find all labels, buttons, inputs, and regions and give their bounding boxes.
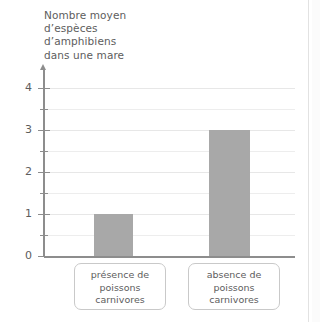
y-tick-major-0 <box>38 256 50 257</box>
gridline-1-0 <box>44 214 295 215</box>
gridline-1-5 <box>44 193 295 194</box>
x-axis-line <box>44 256 295 258</box>
y-tick-minor-0-5 <box>40 235 48 236</box>
gridline-2-0 <box>44 172 295 173</box>
y-tick-label-1: 1 <box>10 208 32 219</box>
category-label-presence: présence de poissons carnivores <box>74 263 166 310</box>
gridline-4-0 <box>44 88 295 89</box>
category-label-absence: absence de poissons carnivores <box>188 263 280 310</box>
y-tick-major-2 <box>38 172 50 173</box>
y-tick-label-4: 4 <box>10 82 32 93</box>
page-margin <box>312 0 320 322</box>
y-tick-minor-1-5 <box>40 193 48 194</box>
page-edge-line <box>308 0 309 322</box>
y-tick-label-2: 2 <box>10 166 32 177</box>
y-tick-major-4 <box>38 88 50 89</box>
y-axis-line <box>43 68 45 257</box>
bar-presence-poissons-carnivores <box>94 214 133 256</box>
y-tick-major-3 <box>38 130 50 131</box>
gridline-0-5 <box>44 235 295 236</box>
y-axis-arrow-icon <box>40 64 46 70</box>
bar-absence-poissons-carnivores <box>209 130 250 256</box>
gridline-2-5 <box>44 151 295 152</box>
gridline-3-0 <box>44 130 295 131</box>
bar-chart-figure: 4 3 2 1 0 Nombre moyen d’espèces d’amphi… <box>0 0 320 322</box>
y-tick-label-3: 3 <box>10 124 32 135</box>
y-tick-minor-3-5 <box>40 109 48 110</box>
y-tick-label-0: 0 <box>10 250 32 261</box>
y-axis-title: Nombre moyen d’espèces d’amphibiens dans… <box>44 9 204 62</box>
y-tick-major-1 <box>38 214 50 215</box>
gridline-3-5 <box>44 109 295 110</box>
y-tick-minor-2-5 <box>40 151 48 152</box>
